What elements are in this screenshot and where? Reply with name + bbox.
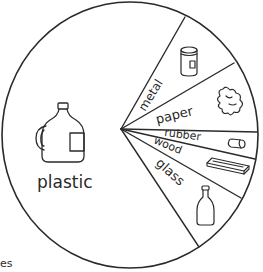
bottle-icon (197, 186, 214, 225)
crumpled-paper-icon (218, 87, 243, 115)
label-glass: glass (153, 155, 188, 189)
can-icon (181, 47, 197, 76)
label-plastic: plastic (37, 172, 93, 192)
pie-outline (2, 2, 258, 268)
wood-plank-icon (207, 158, 249, 174)
jug-icon (36, 103, 84, 162)
eraser-icon (228, 139, 245, 148)
cropped-caption-fragment: es (0, 258, 13, 270)
recycling-pie-chart: plastic metal paper rubber wood glass (0, 0, 263, 272)
